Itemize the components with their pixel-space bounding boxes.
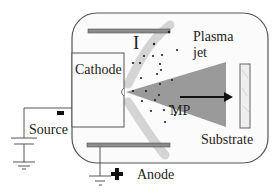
plasma-jet-label-line1: Plasma — [193, 29, 234, 44]
ion-flow-label: I — [133, 32, 139, 53]
plus-icon — [111, 168, 123, 180]
bottom-anode-plate — [87, 143, 170, 147]
anode-label: Anode — [137, 167, 174, 182]
cathode-label: Cathode — [75, 62, 122, 77]
macroparticle-label: MP — [170, 103, 190, 118]
source-label: Source — [29, 122, 68, 137]
plasma-jet-diagram: Cathode Plasma jet I MP Substrate Source… — [0, 0, 276, 194]
minus-icon — [57, 111, 64, 115]
substrate-label: Substrate — [201, 132, 253, 147]
top-anode-plate — [88, 29, 170, 33]
plasma-jet-label-line2: jet — [192, 45, 207, 60]
